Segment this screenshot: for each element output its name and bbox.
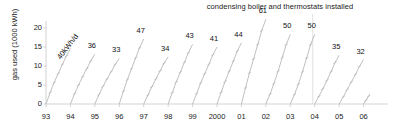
- series-line-02: [266, 34, 290, 104]
- x-tick-label-98: 98: [164, 112, 172, 121]
- x-tick-label-96: 96: [115, 112, 123, 121]
- series-peak-label-04: 35: [332, 42, 340, 51]
- x-tick-label-97: 97: [140, 112, 148, 121]
- series-peak-label-05: 32: [356, 47, 364, 56]
- x-tick-label-94: 94: [66, 112, 74, 121]
- series-line-95: [95, 58, 119, 104]
- x-tick-label-2000: 2000: [209, 112, 226, 121]
- series-line-97: [144, 57, 168, 104]
- series-line-01: [241, 19, 265, 104]
- series-peak-label-2000: 44: [234, 30, 242, 39]
- series-line-96: [119, 39, 143, 104]
- series-peak-label-95: 33: [112, 45, 120, 54]
- series-peak-label-02: 50: [283, 21, 291, 30]
- series-peak-label-97: 34: [161, 44, 169, 53]
- x-tick-label-05: 05: [335, 112, 343, 121]
- x-tick-label-99: 99: [188, 112, 196, 121]
- series-peak-label-03: 50: [308, 21, 316, 30]
- x-tick-label-03: 03: [286, 112, 294, 121]
- x-tick-label-04: 04: [311, 112, 319, 121]
- x-tick-label-02: 02: [262, 112, 270, 121]
- series-line-03: [290, 34, 314, 104]
- series-peak-label-94: 36: [88, 41, 96, 50]
- series-line-98: [168, 44, 192, 104]
- series-peak-label-96: 47: [137, 26, 145, 35]
- series-line-99: [193, 47, 217, 104]
- x-tick-label-93: 93: [42, 112, 50, 121]
- series-line-2000: [217, 43, 241, 104]
- series-line-06: [364, 94, 370, 104]
- series-peak-label-98: 43: [185, 31, 193, 40]
- series-line-94: [70, 54, 94, 104]
- series-peak-label-01: 61: [259, 6, 267, 15]
- x-tick-label-01: 01: [237, 112, 245, 121]
- x-tick-label-95: 95: [91, 112, 99, 121]
- gas-usage-chart: condensing boiler and thermostats instal…: [0, 0, 397, 132]
- x-tick-label-06: 06: [359, 112, 367, 121]
- series-peak-label-99: 41: [210, 34, 218, 43]
